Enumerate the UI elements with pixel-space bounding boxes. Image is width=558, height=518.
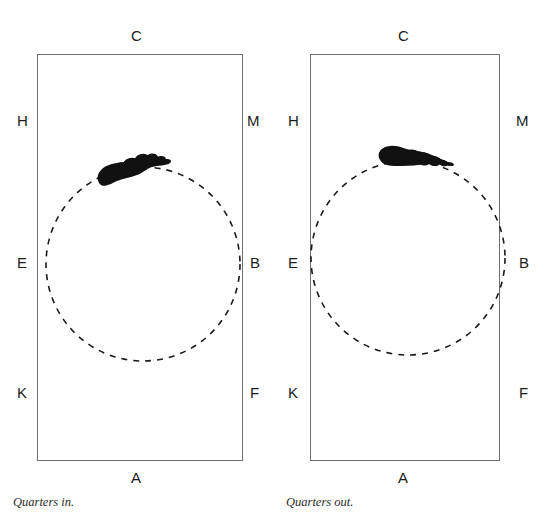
panel-label-f-right: F [519, 385, 528, 400]
panel-plot-right [0, 0, 558, 518]
dashed-circle-right [311, 161, 505, 355]
ink-blob-right [378, 146, 454, 168]
panel-caption-quarters-out: Quarters out. [286, 495, 353, 509]
panel-label-e-right: E [288, 255, 298, 270]
panel-label-c-right: C [398, 28, 409, 43]
panel-label-b-right: B [519, 255, 529, 270]
panel-label-k-right: K [288, 385, 298, 400]
panel-label-a-right: A [398, 470, 408, 485]
figure-root: C A H E K M B F Quarters in. C A H E K M… [0, 0, 558, 518]
panel-label-m-right: M [516, 113, 529, 128]
panel-label-h-right: H [288, 113, 299, 128]
